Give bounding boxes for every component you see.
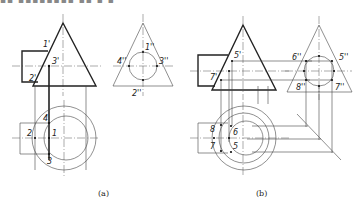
label-1: 1 — [52, 129, 57, 138]
label-6: 6 — [233, 128, 238, 137]
figure-a: 1' 2' 3' 1'' 2'' 3'' 4'' — [12, 14, 175, 198]
label-6-double-prime: 6'' — [292, 53, 302, 62]
label-1-prime: 1' — [43, 40, 50, 49]
label-7: 7 — [210, 142, 216, 151]
top-view-a: 1 2 3 4 — [12, 100, 100, 176]
label-1-double-prime: 1'' — [145, 43, 155, 52]
front-view-a: 1' 2' 3' — [12, 14, 102, 170]
caption-b: (b) — [256, 189, 267, 198]
label-3: 3 — [47, 157, 52, 166]
label-5-double-prime: 5'' — [339, 53, 349, 62]
label-2-double-prime: 2'' — [132, 89, 142, 98]
label-3-prime: 3' — [52, 57, 59, 66]
label-5-prime: 5' — [234, 51, 241, 60]
label-2: 2 — [27, 129, 32, 138]
caption-a: (a) — [98, 189, 109, 198]
front-view-b: 5' 7' — [190, 16, 312, 152]
label-7-prime: 7' — [210, 73, 217, 82]
label-4: 4 — [43, 114, 48, 123]
figure-b: 5' 7' 5'' 6'' 7'' 8'' — [190, 16, 352, 198]
label-8-double-prime: 8'' — [296, 83, 306, 92]
label-3-double-prime: 3'' — [159, 57, 169, 66]
side-view-b: 5'' 6'' 7'' 8'' — [285, 16, 352, 153]
label-2-prime: 2' — [29, 74, 36, 83]
label-4-double-prime: 4'' — [117, 57, 127, 66]
label-7-double-prime: 7'' — [335, 83, 345, 92]
label-8: 8 — [210, 125, 215, 134]
side-view-a: 1'' 2'' 3'' 4'' — [113, 14, 175, 98]
label-5: 5 — [233, 142, 238, 151]
projection-drawing: 1' 2' 3' 1'' 2'' 3'' 4'' — [0, 0, 360, 212]
